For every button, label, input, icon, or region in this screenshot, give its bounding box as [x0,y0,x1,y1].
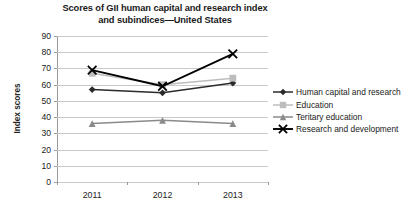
series-3 [89,117,236,127]
legend-item-label: Education [296,100,333,110]
chart-legend: Human capital and researchEducationTerit… [272,86,415,136]
data-point [229,75,236,82]
x-axis-tick-label: 2013 [223,190,243,200]
y-axis-tick-label: 70 [41,63,51,73]
legend-item-3[interactable]: Teritary education [272,111,415,123]
y-axis-tick-label: 20 [41,145,51,155]
data-point [159,89,166,96]
series-layer [57,36,268,182]
legend-item-1[interactable]: Human capital and research [272,86,415,98]
y-axis-tick-label: 50 [41,96,51,106]
y-axis-title: Index scores [13,69,22,149]
legend-item-2[interactable]: Education [272,98,415,110]
legend-item-label: Human capital and research [296,87,401,97]
x-axis-tick [268,182,269,185]
data-point [89,86,96,93]
chart-title-line-2: and subindices—United States [40,15,290,27]
legend-item-label: Research and development [296,124,398,134]
y-axis-tick-label: 90 [41,31,51,41]
y-axis-tick-label: 40 [41,112,51,122]
y-axis-tick-label: 60 [41,80,51,90]
y-axis-tick-label: 30 [41,128,51,138]
gridline [57,182,268,183]
x-axis-tick [57,182,58,185]
chart-title: Scores of GII human capital and research… [40,3,290,26]
legend-item-4[interactable]: Research and development [272,123,415,135]
y-axis-tick-label: 0 [46,177,51,187]
x-axis-tick [198,182,199,185]
diamond-marker-icon [272,86,294,98]
square-marker-icon [272,99,294,111]
data-point [229,50,238,59]
chart-container: Scores of GII human capital and research… [0,0,415,210]
x-axis-tick [127,182,128,185]
legend-item-label: Teritary education [296,112,362,122]
x-marker-icon [272,123,294,135]
x-axis-tick-label: 2012 [153,190,173,200]
y-axis-tick-label: 80 [41,47,51,57]
y-axis-tick-label: 10 [41,161,51,171]
triangle-marker-icon [272,111,294,123]
plot-area: 0102030405060708090 201120122013 [57,36,268,182]
x-axis-tick-label: 2011 [83,190,102,200]
chart-title-line-1: Scores of GII human capital and research… [40,3,290,15]
